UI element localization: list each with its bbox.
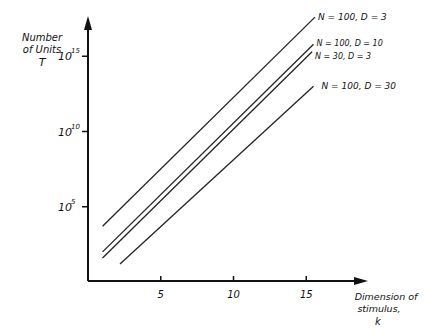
y-tick-exponent: 5 <box>71 198 76 206</box>
series-line: N = 100, D = 30 <box>120 81 396 264</box>
x-tick-label: 10 <box>227 289 240 300</box>
x-tick: 15 <box>300 276 313 300</box>
x-axis-arrow-icon <box>354 277 368 285</box>
series-lines: N = 100, D = 3N = 100, D = 10N = 30, D =… <box>103 12 397 264</box>
y-tick-label: 10 <box>58 126 72 139</box>
series-line: N = 100, D = 10 <box>103 39 383 252</box>
chart: 10510101015 51015 N = 100, D = 3N = 100,… <box>0 0 429 335</box>
x-tick: 10 <box>227 276 240 300</box>
y-ticks: 10510101015 <box>58 47 88 214</box>
series-label: N = 100, D = 3 <box>318 12 387 22</box>
x-tick-label: 15 <box>300 289 313 300</box>
x-tick-label: 5 <box>158 289 164 300</box>
y-tick-label: 10 <box>58 201 72 214</box>
y-tick: 1010 <box>58 123 88 139</box>
svg-text:of Units: of Units <box>23 44 61 55</box>
x-axis-title: Dimension of stimulus, k <box>355 291 419 327</box>
x-axis <box>88 277 368 285</box>
y-axis-title: Number of Units T <box>22 32 63 69</box>
series-label: N = 30, D = 3 <box>315 52 371 61</box>
x-ticks: 51015 <box>158 276 313 300</box>
svg-text:stimulus,: stimulus, <box>357 303 400 314</box>
series-label: N = 100, D = 10 <box>317 39 383 48</box>
svg-text:Number: Number <box>22 32 63 43</box>
svg-text:Dimension of: Dimension of <box>355 291 419 302</box>
y-tick-exponent: 15 <box>71 47 80 55</box>
y-tick-exponent: 10 <box>71 123 80 131</box>
x-tick: 5 <box>158 276 164 300</box>
y-tick: 1015 <box>58 47 88 63</box>
y-axis-arrow-icon <box>84 16 92 30</box>
svg-text:T: T <box>39 56 47 69</box>
y-tick: 105 <box>58 198 88 214</box>
series-label: N = 100, D = 30 <box>322 81 397 91</box>
svg-text:k: k <box>375 316 382 327</box>
